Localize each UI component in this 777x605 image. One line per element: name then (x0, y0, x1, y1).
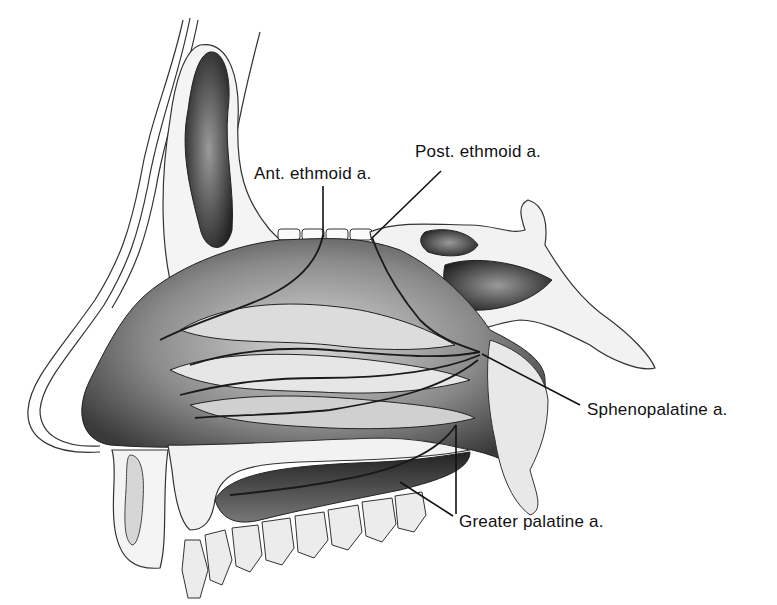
label-ant-ethmoid-artery: Ant. ethmoid a. (254, 165, 371, 182)
label-sphenopalatine-artery: Sphenopalatine a. (587, 401, 727, 418)
label-greater-palatine-artery: Greater palatine a. (459, 513, 604, 530)
nasal-cavity-illustration (0, 0, 777, 605)
label-post-ethmoid-artery: Post. ethmoid a. (415, 143, 541, 160)
